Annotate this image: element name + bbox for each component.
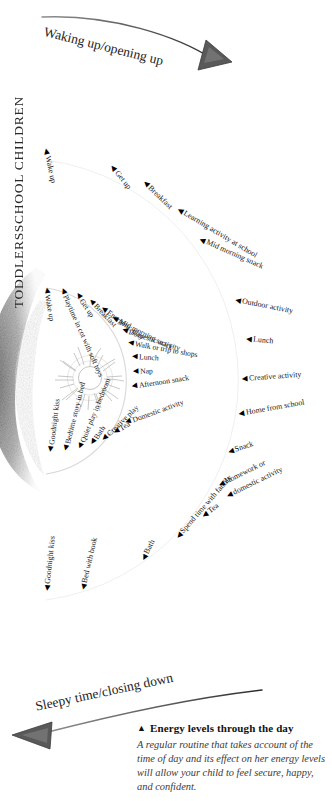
caption-body: A regular routine that takes account of … [137, 738, 329, 794]
tick-marker-icon: ◀ [133, 368, 138, 375]
tick-marker-icon: ◀ [242, 375, 248, 383]
tick-marker-icon: ◀ [89, 439, 98, 447]
caption-triangle-icon: ▲ [137, 723, 146, 734]
timeline-tick: ◀Bed with book [79, 537, 99, 591]
figure-caption: ▲ Energy levels through the day A regula… [137, 722, 329, 794]
tick-marker-icon: ◀ [140, 554, 149, 562]
timeline-tick: ◀Wake up [42, 287, 55, 322]
tick-marker-icon: ◀ [62, 445, 70, 452]
phase-label-waking-up: Waking up/opening up [42, 24, 165, 69]
tick-marker-icon: ◀ [42, 287, 50, 293]
timeline-tick: ◀Nap [133, 367, 153, 375]
timeline-tick: ◀Breakfast [141, 179, 173, 211]
tick-marker-icon: ◀ [77, 443, 86, 450]
caption-heading: ▲ Energy levels through the day [137, 722, 329, 736]
caption-title: Energy levels through the day [150, 722, 294, 736]
tick-label: Bed with book [81, 537, 99, 584]
timeline-tick: ◀Goodnight kiss [47, 398, 61, 452]
timeline-tick: ◀Lunch [132, 353, 159, 362]
category-label-school-children: SCHOOL CHILDREN [12, 96, 26, 232]
timeline-tick: ◀Spend time with family [174, 474, 233, 541]
tick-label: Outdoor activity [241, 297, 293, 315]
tick-label: Spend time with family [179, 474, 234, 535]
tick-marker-icon: ◀ [47, 446, 55, 452]
tick-label: Domestic activity [131, 398, 184, 424]
timeline-tick: ◀Lunch [246, 335, 274, 345]
tick-marker-icon: ◀ [42, 148, 50, 154]
tick-label: Home from school [245, 399, 305, 417]
tick-marker-icon: ◀ [131, 382, 137, 390]
tick-label: Nap [140, 367, 153, 375]
tick-label: Snack [234, 440, 255, 453]
tick-marker-icon: ◀ [127, 339, 133, 347]
tick-marker-icon: ◀ [234, 296, 240, 304]
tick-label: Get up [113, 169, 132, 191]
tick-label: Goodnight kiss [44, 536, 57, 585]
tick-label: Lunch [253, 336, 274, 346]
tick-label: Breakfast [146, 184, 173, 211]
tick-label: Wake up [44, 155, 57, 184]
tick-marker-icon: ◀ [238, 409, 244, 417]
tick-label: Afternoon snack [139, 374, 190, 389]
timeline-tick: ◀Wake up [42, 148, 57, 184]
tick-marker-icon: ◀ [246, 335, 252, 343]
tick-marker-icon: ◀ [43, 586, 51, 592]
category-label-toddlers: TODDLERS [12, 232, 26, 308]
timeline-tick: ◀Outdoor activity [234, 296, 294, 315]
timeline-tick: ◀Bath [139, 538, 156, 561]
tick-marker-icon: ◀ [227, 447, 234, 456]
tick-label: Goodnight kiss [48, 398, 61, 445]
timeline-tick: ◀Creative activity [242, 371, 302, 383]
timeline-tick: ◀Get up [109, 164, 133, 191]
tick-marker-icon: ◀ [132, 353, 137, 360]
timeline-tick: ◀Afternoon snack [131, 374, 189, 391]
tick-label: Wake up [44, 294, 56, 322]
timeline-tick: ◀Goodnight kiss [43, 536, 57, 592]
tick-label: Lunch [139, 353, 159, 362]
tick-label: Bath [143, 538, 157, 555]
tick-marker-icon: ◀ [121, 326, 128, 334]
tick-marker-icon: ◀ [79, 584, 87, 591]
timeline-tick: ◀Home from school [238, 399, 305, 418]
timeline-tick: ◀Snack [227, 440, 255, 456]
tick-label: Creative activity [249, 371, 302, 383]
figure-canvas: SCHOOL CHILDREN TODDLERS Waking up/openi… [0, 0, 332, 801]
phase-label-sleepy-time: Sleepy time/closing down [34, 670, 174, 715]
